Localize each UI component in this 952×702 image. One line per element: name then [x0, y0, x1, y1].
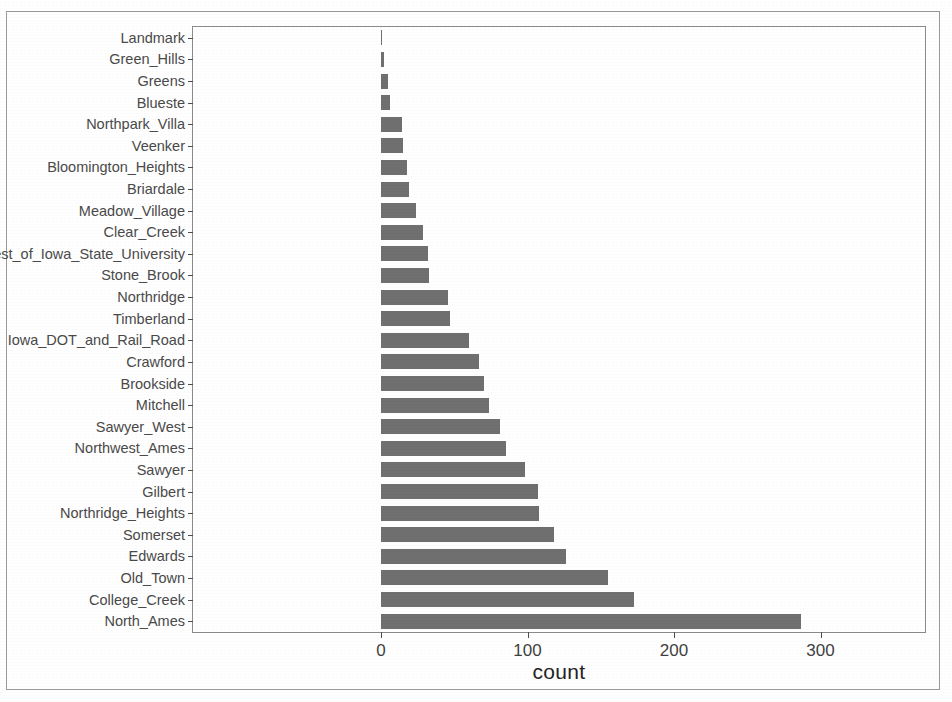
- bar-row: South_and_West_of_Iowa_State_University: [193, 243, 925, 265]
- bar-row: Iowa_DOT_and_Rail_Road: [193, 330, 925, 352]
- bar: [381, 527, 554, 542]
- y-axis-tick: [188, 492, 193, 493]
- y-axis-tick-label: Crawford: [126, 355, 185, 370]
- x-axis-tick-label: 0: [376, 641, 385, 661]
- bar-row: Timberland: [193, 308, 925, 330]
- bar: [381, 117, 402, 132]
- bar: [381, 74, 388, 89]
- y-axis-tick-label: Gilbert: [142, 484, 185, 499]
- bar: [381, 549, 566, 564]
- y-axis-tick: [188, 103, 193, 104]
- y-axis-tick-label: Somerset: [123, 528, 185, 543]
- bar: [381, 484, 538, 499]
- y-axis-tick: [188, 362, 193, 363]
- y-axis-tick: [188, 189, 193, 190]
- y-axis-tick: [188, 513, 193, 514]
- bar: [381, 268, 429, 283]
- bar-row: Northpark_Villa: [193, 113, 925, 135]
- bar-row: Brookside: [193, 373, 925, 395]
- y-axis-tick-label: Old_Town: [121, 571, 185, 586]
- bar: [381, 290, 448, 305]
- y-axis-tick: [188, 124, 193, 125]
- y-axis-tick: [188, 470, 193, 471]
- y-axis-tick-label: Clear_Creek: [104, 225, 185, 240]
- y-axis-tick-label: Sawyer: [137, 463, 185, 478]
- y-axis-tick: [188, 535, 193, 536]
- bar-row: Sawyer: [193, 459, 925, 481]
- y-axis-tick: [188, 405, 193, 406]
- bar: [381, 203, 416, 218]
- y-axis-tick: [188, 578, 193, 579]
- y-axis-tick-label: South_and_West_of_Iowa_State_University: [0, 247, 185, 262]
- y-axis-tick-label: Northwest_Ames: [75, 441, 185, 456]
- y-axis-tick: [188, 319, 193, 320]
- bar-row: Stone_Brook: [193, 265, 925, 287]
- y-axis-tick-label: Iowa_DOT_and_Rail_Road: [8, 333, 185, 348]
- bar: [381, 506, 539, 521]
- bar-row: Green_Hills: [193, 49, 925, 71]
- bar-row: Landmark: [193, 27, 925, 49]
- y-axis-tick: [188, 146, 193, 147]
- x-axis-tick: [381, 632, 382, 638]
- y-axis-tick: [188, 384, 193, 385]
- bar-row: Edwards: [193, 546, 925, 568]
- bar-row: Briardale: [193, 178, 925, 200]
- bar-row: Somerset: [193, 524, 925, 546]
- plot-area: LandmarkGreen_HillsGreensBluesteNorthpar…: [193, 27, 925, 632]
- bar: [381, 246, 428, 261]
- y-axis-tick: [188, 38, 193, 39]
- y-axis-tick-label: Edwards: [129, 549, 185, 564]
- y-axis-tick: [188, 211, 193, 212]
- x-axis-tick-label: 300: [806, 641, 834, 661]
- y-axis-tick-label: Timberland: [113, 311, 185, 326]
- bar: [381, 376, 484, 391]
- y-axis-tick-label: Mitchell: [136, 398, 185, 413]
- y-axis-tick-label: Landmark: [121, 31, 185, 46]
- bar: [381, 614, 801, 629]
- bar: [381, 311, 450, 326]
- bar: [381, 419, 500, 434]
- y-axis-tick: [188, 448, 193, 449]
- bar-row: Meadow_Village: [193, 200, 925, 222]
- x-axis-title: count: [192, 660, 926, 684]
- bar: [381, 160, 407, 175]
- chart-screenshot: LandmarkGreen_HillsGreensBluesteNorthpar…: [0, 0, 952, 702]
- y-axis-tick-label: Northridge_Heights: [60, 506, 185, 521]
- bar: [381, 182, 409, 197]
- bar: [381, 592, 634, 607]
- bar-row: Northridge_Heights: [193, 502, 925, 524]
- y-axis-tick-label: Bloomington_Heights: [47, 160, 185, 175]
- bar-row: Mitchell: [193, 394, 925, 416]
- y-axis-tick: [188, 621, 193, 622]
- y-axis-tick-label: Blueste: [137, 95, 185, 110]
- plot-panel: LandmarkGreen_HillsGreensBluesteNorthpar…: [192, 26, 926, 633]
- x-axis-tick: [821, 632, 822, 638]
- bar: [381, 441, 506, 456]
- bar-row: Sawyer_West: [193, 416, 925, 438]
- y-axis-tick: [188, 275, 193, 276]
- y-axis-tick-label: Stone_Brook: [101, 268, 185, 283]
- bar-row: Bloomington_Heights: [193, 157, 925, 179]
- bar-row: Blueste: [193, 92, 925, 114]
- y-axis-tick: [188, 167, 193, 168]
- bar: [381, 354, 479, 369]
- bar-row: Clear_Creek: [193, 221, 925, 243]
- bar-row: College_Creek: [193, 589, 925, 611]
- y-axis-tick: [188, 600, 193, 601]
- y-axis-tick: [188, 59, 193, 60]
- bar-row: North_Ames: [193, 610, 925, 632]
- bar: [381, 52, 384, 67]
- bar: [381, 30, 382, 45]
- y-axis-tick-label: North_Ames: [104, 614, 185, 629]
- y-axis-tick: [188, 340, 193, 341]
- x-axis-tick: [528, 632, 529, 638]
- x-axis-tick-label: 100: [513, 641, 541, 661]
- bar: [381, 138, 403, 153]
- y-axis-tick: [188, 427, 193, 428]
- y-axis-tick-label: Northridge: [117, 290, 185, 305]
- y-axis-tick: [188, 254, 193, 255]
- bar-row: Greens: [193, 70, 925, 92]
- bar: [381, 333, 469, 348]
- bar: [381, 225, 423, 240]
- y-axis-tick-label: Green_Hills: [109, 52, 185, 67]
